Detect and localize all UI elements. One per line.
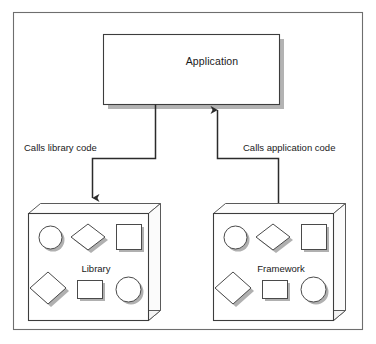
diagram-svg xyxy=(0,0,376,344)
framework-label: Framework xyxy=(230,263,332,274)
framework-node xyxy=(214,204,346,321)
figure-canvas: Application Calls library code Calls app… xyxy=(0,0,376,344)
library-shape-square-1 xyxy=(117,225,145,253)
library-label: Library xyxy=(48,263,144,274)
edge-label-calls-application-code: Calls application code xyxy=(243,142,335,153)
library-node xyxy=(29,204,161,321)
application-node xyxy=(104,35,285,110)
framework-shape-rectangle-1 xyxy=(263,281,291,302)
application-box xyxy=(104,35,280,105)
application-label: Application xyxy=(0,55,376,67)
library-shape-rectangle-1 xyxy=(78,281,106,302)
edge-label-calls-library-code: Calls library code xyxy=(24,142,97,153)
framework-shape-square-1 xyxy=(302,225,330,253)
